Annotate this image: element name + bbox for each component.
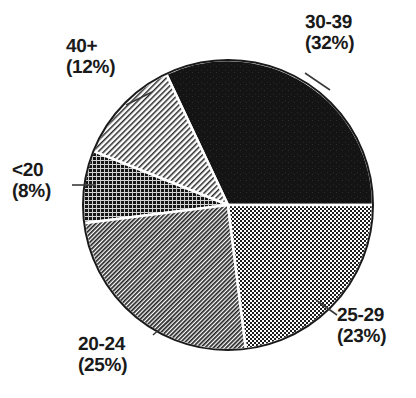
- pie-label-25-29: 25-29 (23%): [337, 305, 386, 348]
- pie-label-20-24: 20-24 (25%): [78, 334, 127, 377]
- pie-slice-20-24[interactable]: [84, 205, 246, 350]
- pie-label-40-plus-name: 40+: [66, 36, 115, 57]
- pie-label-under-20-name: <20: [12, 160, 51, 181]
- pie-label-25-29-percent: (23%): [337, 326, 386, 347]
- pie-label-20-24-name: 20-24: [78, 334, 127, 355]
- pie-label-30-39-percent: (32%): [305, 33, 354, 54]
- pie-label-25-29-name: 25-29: [337, 305, 386, 326]
- pie-label-30-39: 30-39 (32%): [305, 12, 354, 55]
- pie-chart: 30-39 (32%) 40+ (12%) <20 (8%) 20-24 (25…: [0, 0, 416, 398]
- pie-label-40-plus-percent: (12%): [66, 57, 115, 78]
- pie-label-under-20-percent: (8%): [12, 181, 51, 202]
- pie-label-40-plus: 40+ (12%): [66, 36, 115, 79]
- pie-label-under-20: <20 (8%): [12, 160, 51, 203]
- pie-label-30-39-name: 30-39: [305, 12, 354, 33]
- pie-label-20-24-percent: (25%): [78, 355, 127, 376]
